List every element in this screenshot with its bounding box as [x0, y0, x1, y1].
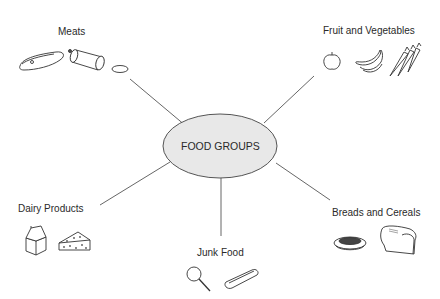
cheese-icon — [59, 232, 90, 250]
bread-loaf-icon — [381, 226, 416, 254]
connector-dairy — [100, 162, 170, 205]
center-label: FOOD GROUPS — [181, 140, 260, 152]
connector-fruit-veg — [264, 76, 314, 123]
banana-icon — [356, 50, 383, 72]
steak-icon — [20, 52, 64, 70]
node-label-breads: Breads and Cereals — [332, 207, 420, 218]
sausage-roll-icon — [69, 49, 106, 71]
hot-dog-icon — [225, 269, 258, 288]
node-label-junk: Junk Food — [197, 247, 244, 258]
connector-breads — [276, 163, 330, 200]
meat-slice-icon — [112, 66, 128, 73]
cereal-bowl-icon — [334, 237, 366, 250]
apple-icon — [324, 52, 340, 69]
connector-meats — [130, 79, 186, 126]
carrot-icon — [390, 43, 421, 76]
lollipop-icon — [187, 267, 210, 291]
node-label-fruit-veg: Fruit and Vegetables — [323, 25, 415, 36]
node-label-meats: Meats — [58, 26, 85, 37]
node-label-dairy: Dairy Products — [18, 203, 84, 214]
milk-carton-icon — [26, 226, 46, 255]
